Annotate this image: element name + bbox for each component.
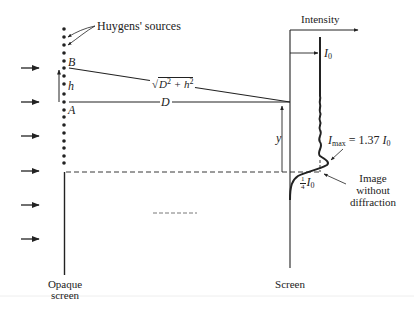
quarter-i0-label: 14I0 — [300, 176, 315, 191]
slant-path-line — [69, 68, 150, 81]
intensity-axis-label: Intensity — [301, 14, 340, 25]
opaque-screen-label: Opaque screen — [40, 279, 90, 301]
imax-label: Imax = 1.37 I0 — [328, 134, 391, 148]
screen-label: Screen — [270, 279, 310, 290]
slant-distance-label: √D2 + h2 — [152, 77, 193, 90]
imax-pointer — [331, 149, 343, 160]
point-a-label: A — [68, 104, 75, 116]
huygens-pointer — [68, 26, 95, 45]
image-without-diffraction-label: Image without diffraction — [343, 172, 403, 208]
y-label: y — [276, 132, 281, 144]
i0-label: I0 — [324, 47, 332, 61]
distance-label: D — [161, 96, 170, 108]
huygens-sources-label: Huygens' sources — [97, 20, 181, 32]
huygens-source-dots — [62, 27, 66, 165]
incident-arrows — [21, 68, 39, 239]
diffraction-diagram — [0, 0, 414, 309]
point-b-label: B — [68, 56, 75, 68]
slant-path-line-2 — [195, 88, 290, 103]
height-label: h — [68, 80, 74, 92]
